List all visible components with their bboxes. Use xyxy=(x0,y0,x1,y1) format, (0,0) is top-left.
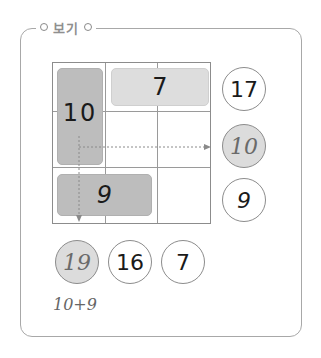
arrow-down-icon xyxy=(76,215,82,222)
col-sum-value: 16 xyxy=(116,250,144,275)
handwritten-note: 10+9 xyxy=(53,295,97,314)
col-sum-value: 7 xyxy=(176,250,190,275)
col-sum-circle-1: 19 xyxy=(55,240,99,284)
col-sum-circle-2: 16 xyxy=(108,240,152,284)
row-sum-circle-3: 9 xyxy=(222,178,266,222)
row-sum-circle-2: 10 xyxy=(222,124,266,168)
col-sum-circle-3: 7 xyxy=(161,240,205,284)
row-sum-value: 17 xyxy=(230,77,258,102)
row-sum-value: 10 xyxy=(230,134,258,159)
row-sum-value: 9 xyxy=(237,188,251,213)
arrows-overlay xyxy=(0,0,321,358)
row-sum-circle-1: 17 xyxy=(222,67,266,111)
col-sum-value: 19 xyxy=(63,250,91,275)
arrow-right-icon xyxy=(204,144,211,150)
